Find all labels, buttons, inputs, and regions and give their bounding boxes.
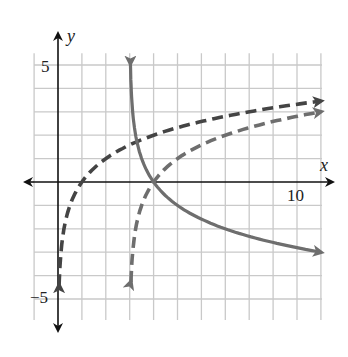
log-graph: y x 5 −5 10 <box>0 0 348 357</box>
curve-log2-dashed <box>59 101 321 285</box>
x-tick-10: 10 <box>287 186 304 205</box>
y-axis-label: y <box>65 26 75 46</box>
y-tick-5: 5 <box>41 57 50 76</box>
grid <box>34 53 322 320</box>
axes <box>26 34 332 330</box>
y-tick-neg5: −5 <box>30 288 48 307</box>
x-axis-label: x <box>319 155 328 175</box>
